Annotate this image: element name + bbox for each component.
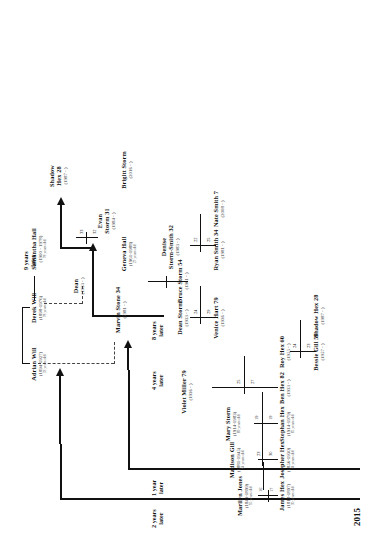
sibling-tick-adrian: [22, 363, 30, 364]
line-4years: [127, 346, 129, 370]
person-shadow-hex-left[interactable]: Shadow Hex 28 (1987 - ): [312, 284, 325, 348]
person-dean[interactable]: Dean (1933 - ): [72, 260, 85, 312]
family-tree-canvas: 2015 2 years later 1 year later 4 years …: [0, 0, 386, 536]
person-samantha-hall[interactable]: Samantha Hall (1900 - 1978) 78 years old: [30, 214, 48, 284]
line-to-adrian-will: [59, 374, 61, 444]
marriage-line-dean-venice: [190, 317, 218, 318]
person-roy-hex[interactable]: Roy Hex 60 (1955 - ): [278, 320, 291, 384]
diagram-viewport: 2015 2 years later 1 year later 4 years …: [0, 0, 386, 536]
time-label-8years: 8 years later: [150, 321, 165, 340]
dashed-line-adrian-marvin: [38, 363, 114, 364]
couple-number-shadow: 33: [79, 230, 84, 234]
marriage-bar-ben-violet: [244, 382, 245, 394]
year-label: 2015: [352, 508, 362, 526]
person-evan-storm[interactable]: Evan Storm 31 (1984 - ): [96, 196, 116, 246]
trunk-main-vertical: [60, 498, 360, 500]
person-marvin-stone[interactable]: Marvin Stone 34 (1981 - ): [114, 276, 127, 344]
couple-number-denise: 22: [193, 238, 198, 242]
marriage-bar-ryan-denise: [200, 240, 201, 252]
person-brigitt-storm[interactable]: Brigitt Storm (2016 - ): [120, 140, 133, 200]
couple-number-ben: 27: [250, 380, 255, 384]
line-9years: [60, 203, 62, 249]
descent-line-gen3: [262, 392, 263, 418]
marriage-bar-derek-samantha: [34, 276, 35, 300]
marriage-line-james-marilyn: [268, 495, 278, 496]
line-8years: [92, 249, 94, 317]
trunk-branch-1year: [128, 370, 130, 470]
descent-line-smith: [200, 214, 201, 240]
trunk-branch-2years: [60, 444, 62, 500]
marriage-line-ryan-denise: [190, 245, 216, 246]
person-nate-smith[interactable]: Nate Smith 7 (2008 - ): [212, 178, 225, 240]
couple-number-james: 17: [269, 488, 274, 492]
time-label-2years: 2 years later: [150, 509, 165, 528]
marriage-bar-roy-bessie: [300, 346, 301, 358]
marriage-line-stephan-mary: [254, 423, 278, 424]
person-adrian-will[interactable]: Adrian Will (1894-1927) 33 years old: [30, 332, 48, 396]
marriage-bar-stephan-mary: [262, 418, 263, 430]
marriage-line-ben-violet: [212, 387, 278, 388]
couple-number-venice: 29: [206, 310, 211, 314]
marriage-line-evan-shadow: [76, 237, 98, 238]
time-label-1year: 1 year later: [150, 480, 165, 496]
descent-line-gen5: [300, 320, 301, 346]
couple-number-violet: 25: [236, 380, 241, 384]
marriage-line-roy-bessie: [290, 351, 316, 352]
marriage-bar-josepher-madison: [262, 454, 263, 466]
marriage-line-marilyn: [258, 495, 268, 496]
trunk-9years-vertical: [60, 247, 94, 249]
trunk-8years-vertical: [92, 315, 164, 317]
couple-number-bruce: 24: [193, 310, 198, 314]
marriage-bar-evan-shadow: [86, 232, 87, 244]
descent-line-gen2: [262, 428, 263, 454]
sibling-tick-derek: [22, 307, 30, 308]
person-denise-storm-smith[interactable]: Denise Storm-Smith 32 (1983 - ): [160, 216, 180, 278]
marriage-bar-dean-venice: [200, 312, 201, 324]
person-derek-will[interactable]: Derek Will (1898-1976) 78 years old: [30, 276, 48, 340]
couple-number-ryan: 25: [206, 238, 211, 242]
time-label-4years: 4 years later: [150, 371, 165, 390]
couple-number-mary: 19: [254, 416, 259, 420]
sibling-bar-will: [22, 308, 23, 364]
couple-number-josepher: 30: [268, 452, 273, 456]
descent-line-gen4: [244, 356, 245, 382]
marriage-line-bruce-geneva: [148, 281, 188, 282]
couple-number-bessie: 24: [292, 344, 297, 348]
person-venice-hart[interactable]: Venice Hart 79 (1936 - ): [212, 286, 225, 350]
couple-number-evan: 32: [92, 230, 97, 234]
person-mary-storm[interactable]: Mary Storm (1914-1983) 69 years old: [224, 392, 242, 456]
person-geneva-hall[interactable]: Geneva Hall (1961-1988) 27 years old: [120, 222, 138, 286]
dashed-connector-marvin: [114, 342, 115, 364]
couple-number-roy: 23: [306, 344, 311, 348]
person-violet-miller[interactable]: Violet Miller 79 (1936 - ): [180, 360, 193, 424]
couple-number-madison: 23: [256, 452, 261, 456]
couple-number-stephan: 19: [268, 416, 273, 420]
descent-line-storm: [200, 286, 201, 312]
marriage-line-josepher-madison: [258, 459, 278, 460]
descent-line-gen1: [263, 462, 264, 490]
person-shadow-hex-right[interactable]: Shadow Hex 28 (1987 - ): [48, 152, 68, 200]
